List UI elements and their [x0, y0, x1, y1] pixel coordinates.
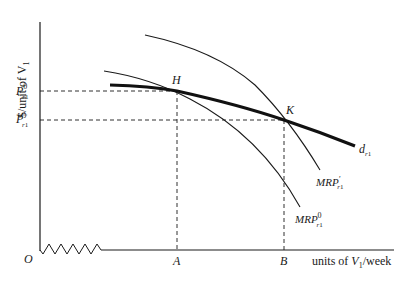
demand-curve	[110, 85, 355, 146]
mrp-prime-label: MRP′r1	[315, 175, 344, 191]
axis-break-zigzag	[40, 244, 101, 254]
economics-diagram: $/unit of V1 units of V1/week O P0r1 P′r…	[0, 0, 410, 281]
x-axis-label: units of V1/week	[312, 254, 391, 270]
mrp-zero-label: MRP0r1	[294, 211, 323, 229]
demand-curve-label: dr1	[359, 142, 372, 158]
point-h-label: H	[171, 73, 182, 87]
point-k-label: K	[285, 103, 295, 117]
quantity-a-label: A	[172, 254, 181, 268]
quantity-b-label: B	[280, 254, 288, 268]
origin-label: O	[24, 252, 33, 266]
